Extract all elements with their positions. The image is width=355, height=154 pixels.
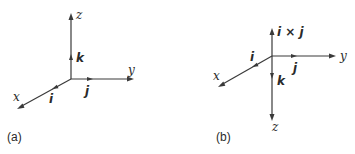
i-vector-label: i xyxy=(250,50,255,64)
y-axis-arrowhead xyxy=(127,77,134,82)
panel-b: i × j i j y x k z (b) xyxy=(213,25,347,144)
i-vector-arrowhead xyxy=(52,85,59,89)
panel-a-caption: (a) xyxy=(7,130,22,144)
z-axis-arrowhead xyxy=(69,13,74,20)
x-axis-arrowhead xyxy=(17,104,25,110)
panel-a: z k y j i x (a) xyxy=(7,8,135,144)
i-vector-label: i xyxy=(49,92,54,106)
y-axis-label: y xyxy=(339,49,347,63)
j-vector-label: j xyxy=(83,84,90,98)
cross-product-arrowhead xyxy=(270,28,275,35)
k-vector-label: k xyxy=(277,74,286,88)
cross-product-label: i × j xyxy=(277,25,305,39)
x-axis-label: x xyxy=(213,69,220,83)
y-axis-arrowhead xyxy=(329,54,336,59)
k-vector-arrowhead xyxy=(69,54,73,60)
j-vector-arrowhead xyxy=(291,54,297,58)
x-axis-label: x xyxy=(13,90,20,104)
k-vector-label: k xyxy=(76,51,85,65)
x-axis xyxy=(221,56,272,85)
panel-b-caption: (b) xyxy=(216,130,231,144)
z-axis-label: z xyxy=(75,8,83,22)
k-vector-arrowhead xyxy=(270,73,274,79)
j-vector-arrowhead xyxy=(87,77,93,81)
coordinate-systems-diagram: z k y j i x (a) i × j i j y x k z (b) xyxy=(0,0,355,154)
j-vector-label: j xyxy=(291,61,298,75)
z-axis-label: z xyxy=(271,120,279,134)
y-axis-label: y xyxy=(127,63,135,77)
x-axis xyxy=(20,79,71,107)
